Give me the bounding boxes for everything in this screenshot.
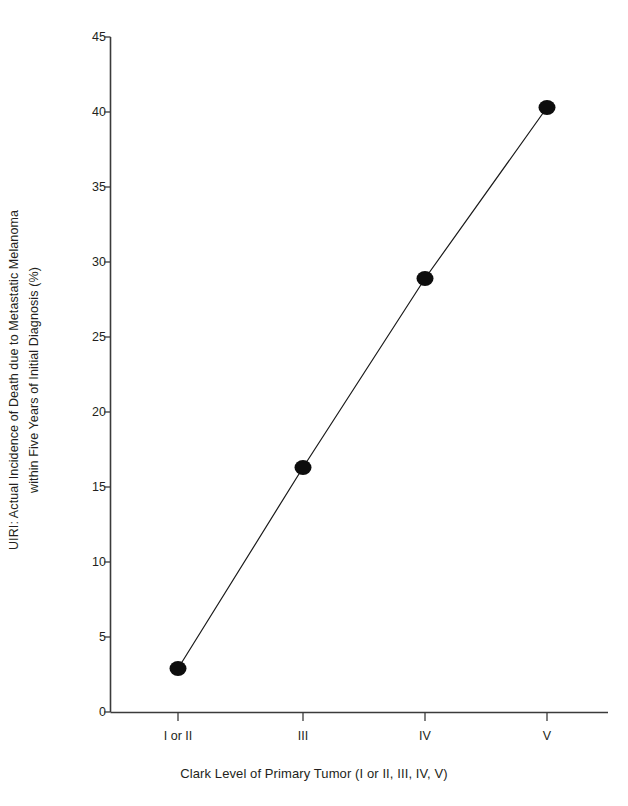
data-point-marker [295, 460, 312, 475]
chart-figure: UIRI: Actual Incidence of Death due to M… [0, 0, 628, 806]
y-axis-ticks [104, 37, 111, 712]
data-point-marker [417, 271, 434, 286]
data-point-marker [539, 100, 556, 115]
x-axis-ticks [178, 713, 547, 722]
series-line-uiri [178, 108, 547, 669]
plot-area [0, 0, 628, 806]
data-point-marker [170, 661, 187, 676]
x-axis-title: Clark Level of Primary Tumor (I or II, I… [0, 766, 628, 781]
